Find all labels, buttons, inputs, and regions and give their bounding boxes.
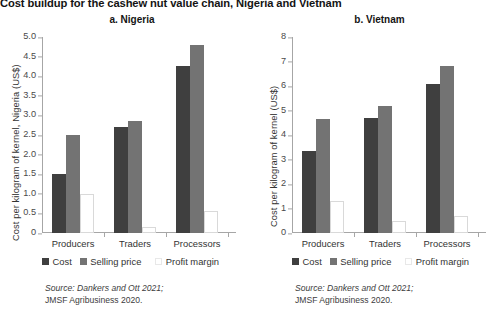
bar-processors-cost[interactable] (426, 84, 440, 233)
bar-group-producers (42, 37, 104, 233)
y-axis-tick-label: 3 (252, 155, 286, 164)
y-axis-tick-label: 0.5 (2, 209, 36, 218)
source-line-1: Source: Dankers and Ott 2021; (45, 283, 163, 295)
y-axis-tick-label: 1.0 (2, 189, 36, 198)
y-axis-tick-label: 5.0 (2, 32, 36, 41)
x-axis-label-producers: Producers (42, 238, 104, 249)
plot-area-nigeria: 5.04.54.03.53.02.52.01.51.00.50 (42, 37, 228, 233)
legend-item-selling-price[interactable]: Selling price (330, 256, 392, 267)
legend-label-selling-price: Selling price (90, 256, 141, 267)
x-axis-label-traders: Traders (354, 238, 416, 249)
x-axis-label-producers: Producers (292, 238, 354, 249)
y-axis-tick-label: 2.0 (2, 150, 36, 159)
x-axis-label-traders: Traders (104, 238, 166, 249)
panel-title-nigeria: a. Nigeria (0, 14, 250, 25)
legend-item-profit-margin[interactable]: Profit margin (155, 256, 219, 267)
y-axis-tick-label: 3.5 (2, 91, 36, 100)
legend-item-cost[interactable]: Cost (292, 256, 322, 267)
bar-processors-profit[interactable] (204, 211, 218, 233)
legend-item-selling-price[interactable]: Selling price (80, 256, 142, 267)
bar-traders-selling[interactable] (378, 106, 392, 233)
bar-group-processors (166, 37, 228, 233)
bar-traders-profit[interactable] (142, 227, 156, 233)
x-axis-group-separator (354, 233, 355, 237)
y-axis-tick-label: 4 (252, 130, 286, 139)
bar-producers-profit[interactable] (80, 194, 94, 233)
x-axis-group-separator (104, 233, 105, 237)
bar-producers-cost[interactable] (52, 174, 66, 233)
legend-vietnam: Cost Selling price Profit margin (292, 256, 486, 267)
source-line-2: JMSF Agribusiness 2020. (45, 295, 163, 307)
bar-group-traders (354, 37, 416, 233)
bar-processors-selling[interactable] (440, 66, 454, 233)
y-axis-tick-label: 1.5 (2, 170, 36, 179)
bar-group-processors (416, 37, 478, 233)
legend-swatch-cost-icon (42, 258, 49, 265)
y-axis-tick-label: 2 (252, 179, 286, 188)
chart-panel-nigeria: a. Nigeria Cost per kilogram of kernel, … (0, 0, 250, 312)
y-axis-tick-label: 7 (252, 57, 286, 66)
legend-swatch-profit-margin-icon (405, 258, 412, 265)
y-axis-tick-mark (38, 233, 42, 234)
bar-group-traders (104, 37, 166, 233)
legend-swatch-profit-margin-icon (155, 258, 162, 265)
x-axis-label-processors: Processors (166, 238, 228, 249)
plot-area-vietnam: 876543210 (292, 37, 478, 233)
bar-traders-cost[interactable] (364, 118, 378, 233)
legend-item-cost[interactable]: Cost (42, 256, 72, 267)
y-axis-tick-label: 1 (252, 204, 286, 213)
panel-title-vietnam: b. Vietnam (250, 14, 499, 25)
x-axis-group-separator (416, 233, 417, 237)
bar-processors-selling[interactable] (190, 45, 204, 233)
bar-producers-selling[interactable] (66, 135, 80, 233)
source-note-vietnam: Source: Dankers and Ott 2021; JMSF Agrib… (295, 283, 413, 306)
chart-panel-vietnam: b. Vietnam Cost per kilogram of kernel (… (250, 0, 499, 312)
x-axis-label-processors: Processors (416, 238, 478, 249)
y-axis-tick-label: 6 (252, 81, 286, 90)
bar-producers-cost[interactable] (302, 151, 316, 233)
y-axis-tick-label: 3.0 (2, 111, 36, 120)
legend-swatch-selling-price-icon (330, 258, 337, 265)
bar-traders-cost[interactable] (114, 127, 128, 233)
bar-processors-cost[interactable] (176, 66, 190, 233)
y-axis-tick-label: 5 (252, 106, 286, 115)
y-axis-tick-label: 2.5 (2, 130, 36, 139)
source-note-nigeria: Source: Dankers and Ott 2021; JMSF Agrib… (45, 283, 163, 306)
source-line-2: JMSF Agribusiness 2020. (295, 295, 413, 307)
legend-label-selling-price: Selling price (340, 256, 391, 267)
bar-producers-profit[interactable] (330, 201, 344, 233)
legend-swatch-selling-price-icon (80, 258, 87, 265)
bar-traders-selling[interactable] (128, 121, 142, 233)
legend-label-cost: Cost (303, 256, 322, 267)
bar-traders-profit[interactable] (392, 221, 406, 233)
legend-label-profit-margin: Profit margin (416, 256, 469, 267)
bar-processors-profit[interactable] (454, 216, 468, 233)
legend-item-profit-margin[interactable]: Profit margin (405, 256, 469, 267)
legend-nigeria: Cost Selling price Profit margin (42, 256, 236, 267)
x-axis-group-separator (166, 233, 167, 237)
y-axis-tick-label: 0 (252, 228, 286, 237)
legend-swatch-cost-icon (292, 258, 299, 265)
y-axis-tick-label: 4.0 (2, 72, 36, 81)
y-axis-tick-label: 8 (252, 32, 286, 41)
x-axis-group-separator (228, 233, 229, 237)
x-axis-group-separator (478, 233, 479, 237)
y-axis-tick-label: 0 (2, 228, 36, 237)
source-line-1: Source: Dankers and Ott 2021; (295, 283, 413, 295)
bar-group-producers (292, 37, 354, 233)
bar-producers-selling[interactable] (316, 119, 330, 233)
legend-label-cost: Cost (53, 256, 72, 267)
legend-label-profit-margin: Profit margin (166, 256, 219, 267)
y-axis-tick-label: 4.5 (2, 52, 36, 61)
y-axis-tick-mark (288, 233, 292, 234)
